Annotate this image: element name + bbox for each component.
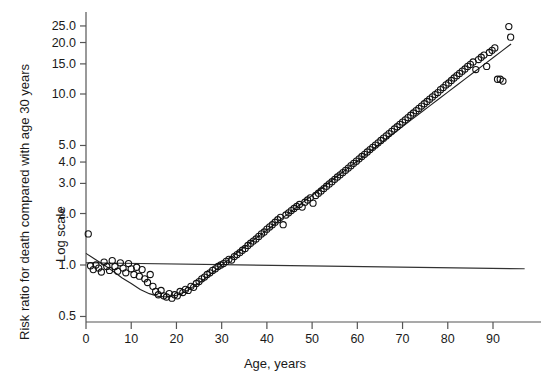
x-axis-ticks [86, 322, 493, 329]
x-tick-label: 20 [169, 332, 183, 346]
data-point-marker [147, 271, 153, 277]
data-point-marker [139, 267, 145, 273]
risk-ratio-unity-line [86, 263, 525, 269]
y-axis-subtitle: Log scale [53, 206, 68, 262]
y-axis-ticks [80, 26, 86, 317]
data-point-marker [310, 200, 316, 206]
chart-canvas [0, 0, 543, 383]
data-points [85, 23, 514, 301]
y-tick-label: 20.0 [20, 36, 76, 50]
x-tick-label: 90 [486, 332, 500, 346]
x-tick-label: 60 [350, 332, 364, 346]
data-point-marker [280, 222, 286, 228]
risk-ratio-scatter-chart: 0.51.02.03.04.05.010.015.020.025.0 01020… [0, 0, 543, 383]
y-axis-title: Risk ratio for death compared with age 3… [17, 64, 32, 340]
data-point-marker [508, 34, 514, 40]
y-tick-label: 25.0 [20, 19, 76, 33]
reference-line [86, 263, 525, 269]
x-tick-label: 10 [124, 332, 138, 346]
x-tick-label: 40 [260, 332, 274, 346]
x-tick-label: 80 [441, 332, 455, 346]
x-tick-label: 0 [83, 332, 90, 346]
x-tick-label: 70 [396, 332, 410, 346]
data-point-marker [123, 270, 129, 276]
x-axis-title: Age, years [244, 356, 306, 371]
x-tick-label: 50 [305, 332, 319, 346]
x-tick-label: 30 [215, 332, 229, 346]
data-point-marker [506, 23, 512, 29]
data-point-marker [484, 63, 490, 69]
